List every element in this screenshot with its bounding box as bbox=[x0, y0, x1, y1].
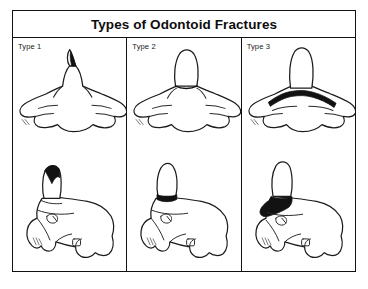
odontoid-fracture-figure: Types of Odontoid Fractures Type 1 bbox=[12, 10, 356, 272]
c2-lateral-type-3 bbox=[242, 155, 355, 272]
column-type-3: Type 3 bbox=[241, 38, 355, 271]
column-label-type-3: Type 3 bbox=[247, 42, 270, 51]
column-label-type-2: Type 2 bbox=[132, 42, 155, 51]
c2-anterior-type-1 bbox=[13, 38, 126, 155]
column-type-1: Type 1 bbox=[13, 38, 126, 271]
c2-lateral-type-1 bbox=[13, 155, 126, 272]
figure-title-bar: Types of Odontoid Fractures bbox=[13, 11, 355, 38]
column-label-type-1: Type 1 bbox=[18, 42, 41, 51]
figure-grid: Type 1 bbox=[13, 38, 355, 271]
column-type-2: Type 2 bbox=[126, 38, 240, 271]
c2-anterior-type-2 bbox=[127, 38, 240, 155]
figure-title: Types of Odontoid Fractures bbox=[91, 17, 277, 32]
c2-lateral-type-2 bbox=[127, 155, 240, 272]
c2-anterior-type-3 bbox=[242, 38, 355, 155]
